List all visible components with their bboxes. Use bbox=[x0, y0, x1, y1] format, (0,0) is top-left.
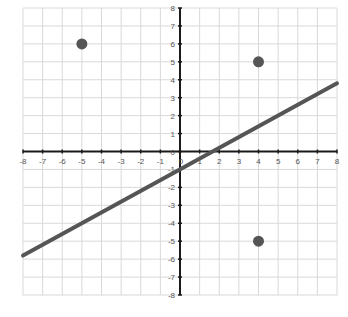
y-tick-label: -5 bbox=[168, 237, 176, 246]
y-tick-label: 3 bbox=[171, 94, 176, 103]
x-tick-label: 4 bbox=[256, 157, 261, 166]
x-tick-label: 7 bbox=[315, 157, 320, 166]
coordinate-plane-chart: -8-7-6-5-4-3-2-1123456780 -8-7-6-5-4-3-2… bbox=[0, 0, 348, 317]
y-tick-label: -3 bbox=[168, 201, 176, 210]
data-point bbox=[253, 56, 264, 67]
data-point bbox=[253, 236, 264, 247]
x-tick-label: -2 bbox=[137, 157, 145, 166]
x-tick-label: 3 bbox=[237, 157, 242, 166]
y-tick-label: -7 bbox=[168, 273, 176, 282]
data-point bbox=[76, 38, 87, 49]
y-tick-label: 2 bbox=[171, 112, 176, 121]
x-tick-label: 6 bbox=[296, 157, 301, 166]
x-tick-label: -1 bbox=[157, 157, 165, 166]
x-tick-label: -3 bbox=[118, 157, 126, 166]
x-axis-tick-labels: -8-7-6-5-4-3-2-1123456780 bbox=[19, 157, 339, 166]
y-tick-label: 6 bbox=[171, 40, 176, 49]
x-tick-label: -4 bbox=[98, 157, 106, 166]
y-tick-label: -8 bbox=[168, 291, 176, 300]
x-tick-label: -8 bbox=[19, 157, 27, 166]
y-tick-label: 8 bbox=[171, 4, 176, 13]
y-tick-label: 1 bbox=[171, 130, 176, 139]
x-tick-label-origin: 0 bbox=[179, 157, 184, 166]
x-tick-label: 2 bbox=[217, 157, 222, 166]
y-tick-label: -4 bbox=[168, 219, 176, 228]
y-tick-label: 4 bbox=[171, 76, 176, 85]
data-points bbox=[76, 38, 264, 246]
axes bbox=[23, 8, 337, 295]
x-tick-label: 8 bbox=[335, 157, 340, 166]
y-tick-label: 0 bbox=[171, 148, 176, 157]
x-tick-label: -5 bbox=[78, 157, 86, 166]
y-tick-label: 7 bbox=[171, 22, 176, 31]
y-tick-label: 5 bbox=[171, 58, 176, 67]
x-tick-label: 5 bbox=[276, 157, 281, 166]
x-tick-label: -7 bbox=[39, 157, 47, 166]
y-tick-label: -6 bbox=[168, 255, 176, 264]
x-tick-label: -6 bbox=[59, 157, 67, 166]
y-tick-label: -2 bbox=[168, 183, 176, 192]
